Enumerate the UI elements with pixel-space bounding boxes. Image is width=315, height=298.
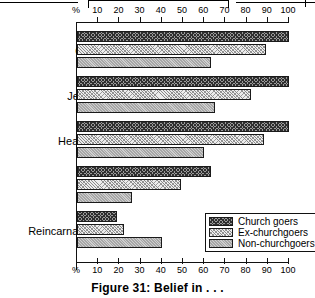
x-axis-tick-60-bot xyxy=(203,258,204,264)
x-axis-label-70-bot: 70 xyxy=(213,266,235,275)
x-axis-tick-90-bot xyxy=(267,258,268,264)
bar-reincarnation-non-churchgoers xyxy=(77,237,162,248)
legend-label: Church goers xyxy=(238,217,298,227)
x-axis-label-90-bot: 90 xyxy=(256,266,278,275)
x-axis-tick-100-bot xyxy=(288,258,289,264)
bar-god-non-churchgoers xyxy=(77,57,211,68)
x-axis-label-60-top: 60 xyxy=(192,6,214,15)
x-axis-tick-50-bot xyxy=(182,258,183,264)
x-axis-label-90-top: 90 xyxy=(256,6,278,15)
x-axis-label-30-top: 30 xyxy=(129,6,151,15)
bar-hell-ex-churchgoers xyxy=(77,179,181,190)
x-axis-tick-60-top xyxy=(203,17,204,23)
x-axis-label-10-bot: 10 xyxy=(86,266,108,275)
x-axis-tick-10-bot xyxy=(97,258,98,264)
bar-jesus-non-churchgoers xyxy=(77,102,215,113)
x-axis-tick-90-top xyxy=(267,17,268,23)
x-axis-label-10-top: 10 xyxy=(86,6,108,15)
x-axis-label-50-bot: 50 xyxy=(171,266,193,275)
x-axis-label-40-bot: 40 xyxy=(150,266,172,275)
bar-reincarnation-ex-churchgoers xyxy=(77,224,124,235)
figure-caption: Figure 31: Belief in . . . xyxy=(0,281,315,295)
bar-heaven-church-goers xyxy=(77,121,289,132)
x-axis-tick-80-top xyxy=(246,17,247,23)
legend-item-non-churchgoers: Non-churchgoers xyxy=(209,238,315,249)
x-axis-label-40-top: 40 xyxy=(150,6,172,15)
bar-reincarnation-church-goers xyxy=(77,211,117,222)
x-axis-label-70-top: 70 xyxy=(213,6,235,15)
x-axis-label-30-bot: 30 xyxy=(129,266,151,275)
x-axis-tick-70-bot xyxy=(224,258,225,264)
x-axis-label-20-top: 20 xyxy=(107,6,129,15)
legend-swatch-church-goers xyxy=(209,217,233,226)
x-axis-label-100-bot: 100 xyxy=(277,266,299,275)
x-axis-tick-100-top xyxy=(288,17,289,23)
x-axis-label-80-bot: 80 xyxy=(235,266,257,275)
legend-label: Non-churchgoers xyxy=(238,239,315,249)
bar-god-ex-churchgoers xyxy=(77,44,266,55)
x-axis-label-80-top: 80 xyxy=(235,6,257,15)
x-axis-tick-30-bot xyxy=(140,258,141,264)
x-axis-unit-label-bot: % xyxy=(65,266,87,275)
bar-chart: %102030405060708090100 %1020304050607080… xyxy=(0,0,315,272)
legend-item-ex-churchgoers: Ex-churchgoers xyxy=(209,227,315,238)
bar-hell-church-goers xyxy=(77,166,211,177)
chart-legend: Church goersEx-churchgoersNon-churchgoer… xyxy=(205,213,315,252)
bar-heaven-non-churchgoers xyxy=(77,147,204,158)
x-axis-tick-30-top xyxy=(140,17,141,23)
x-axis-tick-50-top xyxy=(182,17,183,23)
x-axis-tick-40-bot xyxy=(161,258,162,264)
legend-label: Ex-churchgoers xyxy=(238,228,308,238)
x-axis-tick-40-top xyxy=(161,17,162,23)
x-axis-tick-20-bot xyxy=(118,258,119,264)
legend-item-church-goers: Church goers xyxy=(209,216,315,227)
bar-heaven-ex-churchgoers xyxy=(77,134,264,145)
x-axis-label-100-top: 100 xyxy=(277,6,299,15)
x-axis-tick-70-top xyxy=(224,17,225,23)
x-axis-tick-80-bot xyxy=(246,258,247,264)
x-axis-label-50-top: 50 xyxy=(171,6,193,15)
bar-god-church-goers xyxy=(77,31,289,42)
x-axis-unit-label-top: % xyxy=(65,6,87,15)
x-axis-tick-20-top xyxy=(118,17,119,23)
legend-swatch-ex-churchgoers xyxy=(209,228,233,237)
x-axis-tick-10-top xyxy=(97,17,98,23)
bar-hell-non-churchgoers xyxy=(77,192,132,203)
bar-jesus-ex-churchgoers xyxy=(77,89,251,100)
bar-jesus-church-goers xyxy=(77,76,289,87)
x-axis-label-20-bot: 20 xyxy=(107,266,129,275)
legend-swatch-non-churchgoers xyxy=(209,239,233,248)
x-axis-label-60-bot: 60 xyxy=(192,266,214,275)
